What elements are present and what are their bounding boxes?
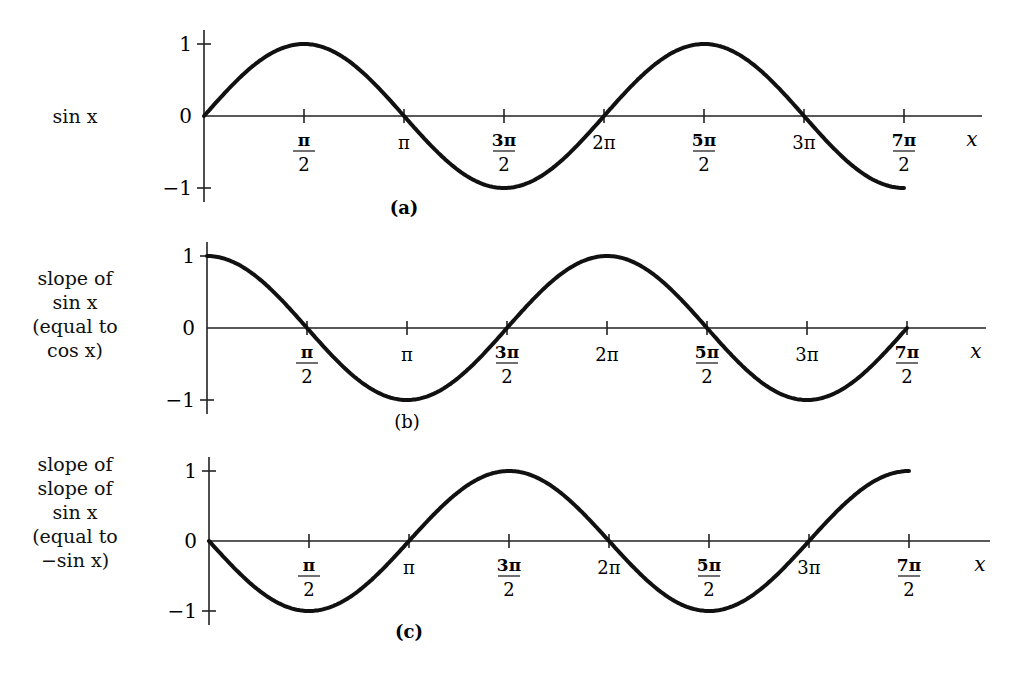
sine-derivative-figure: 10−1π2π3π22π5π23π7π2x(a)10−1π2π3π22π5π23… — [0, 0, 1016, 678]
y-tick-label: −1 — [163, 176, 192, 200]
x-tick-label: 3π — [795, 344, 818, 365]
x-tick-label: 5π — [697, 555, 721, 575]
y-tick-label: 1 — [179, 32, 192, 56]
x-tick-label: 5π — [692, 130, 716, 150]
x-tick-label: 2π — [592, 132, 615, 153]
panel-c: 10−1π2π3π22π5π23π7π2x(c) — [168, 457, 990, 642]
svg-text:2: 2 — [701, 366, 712, 387]
svg-text:2: 2 — [503, 579, 514, 600]
x-tick-label: π — [298, 130, 310, 150]
x-tick-label: 3π — [797, 557, 820, 578]
x-tick-label: π — [401, 344, 413, 365]
svg-text:2: 2 — [498, 154, 509, 175]
svg-text:2: 2 — [901, 366, 912, 387]
x-tick-label: π — [303, 555, 315, 575]
panel-b: 10−1π2π3π22π5π23π7π2x(b) — [166, 242, 986, 432]
x-tick-label: 2π — [597, 557, 620, 578]
x-tick-label: 7π — [895, 342, 919, 362]
svg-text:2: 2 — [501, 366, 512, 387]
svg-text:2: 2 — [301, 366, 312, 387]
svg-text:2: 2 — [298, 154, 309, 175]
svg-text:2: 2 — [903, 579, 914, 600]
svg-text:2: 2 — [703, 579, 714, 600]
x-tick-label: 5π — [695, 342, 719, 362]
x-tick-label: 3π — [497, 555, 521, 575]
panel-a-ylabel: sin x — [10, 104, 140, 128]
x-tick-label: 7π — [897, 555, 921, 575]
panel-caption: (b) — [394, 411, 420, 432]
x-axis-label: x — [974, 552, 985, 576]
svg-text:2: 2 — [303, 579, 314, 600]
x-tick-label: π — [403, 557, 415, 578]
svg-text:2: 2 — [698, 154, 709, 175]
panel-caption: (a) — [390, 197, 419, 218]
x-tick-label: 3π — [495, 342, 519, 362]
y-tick-label: −1 — [168, 599, 197, 623]
y-tick-label: 1 — [184, 459, 197, 483]
x-tick-label: 7π — [892, 130, 916, 150]
x-tick-label: 2π — [595, 344, 618, 365]
x-tick-label: π — [301, 342, 313, 362]
y-tick-label: 0 — [182, 316, 195, 340]
x-tick-label: 3π — [792, 132, 815, 153]
panel-caption: (c) — [395, 621, 423, 642]
x-tick-label: π — [398, 132, 410, 153]
y-tick-label: 0 — [184, 529, 197, 553]
y-tick-label: 0 — [179, 104, 192, 128]
panel-b-ylabel: slope of sin x (equal to cos x) — [10, 266, 140, 362]
x-axis-label: x — [966, 127, 977, 151]
x-tick-label: 3π — [492, 130, 516, 150]
x-axis-label: x — [970, 339, 981, 363]
y-tick-label: 1 — [182, 244, 195, 268]
y-tick-label: −1 — [166, 388, 195, 412]
panel-a: 10−1π2π3π22π5π23π7π2x(a) — [163, 30, 982, 218]
panel-c-ylabel: slope of slope of sin x (equal to −sin x… — [10, 452, 140, 572]
svg-text:2: 2 — [898, 154, 909, 175]
